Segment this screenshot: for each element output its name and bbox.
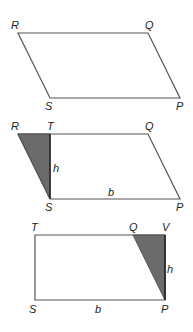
figure-rectangle: T Q V S P h b — [29, 221, 173, 315]
shaded-triangle-qvp — [133, 235, 165, 300]
diagram-canvas: R Q S P R T Q S P h b T Q V S P h b — [0, 0, 193, 332]
height-label-h: h — [167, 263, 173, 275]
vertex-label-s: S — [45, 201, 53, 213]
base-label-b: b — [95, 303, 101, 315]
vertex-label-q: Q — [145, 120, 154, 132]
vertex-label-p: P — [176, 100, 184, 112]
vertex-label-r: R — [11, 120, 19, 132]
vertex-label-s: S — [45, 100, 53, 112]
figure-parallelogram: R Q S P — [11, 19, 184, 112]
vertex-label-q: Q — [145, 19, 154, 31]
figure-parallelogram-with-height: R T Q S P h b — [11, 120, 184, 213]
base-label-b: b — [108, 186, 114, 198]
vertex-label-q: Q — [129, 221, 138, 233]
vertex-label-s: S — [29, 303, 37, 315]
vertex-label-t: T — [47, 120, 55, 132]
height-label-h: h — [53, 162, 59, 174]
parallelogram-rqps — [18, 33, 180, 98]
vertex-label-t: T — [31, 221, 39, 233]
vertex-label-p: P — [161, 303, 169, 315]
vertex-label-r: R — [11, 19, 19, 31]
vertex-label-v: V — [162, 221, 171, 233]
vertex-label-p: P — [176, 201, 184, 213]
